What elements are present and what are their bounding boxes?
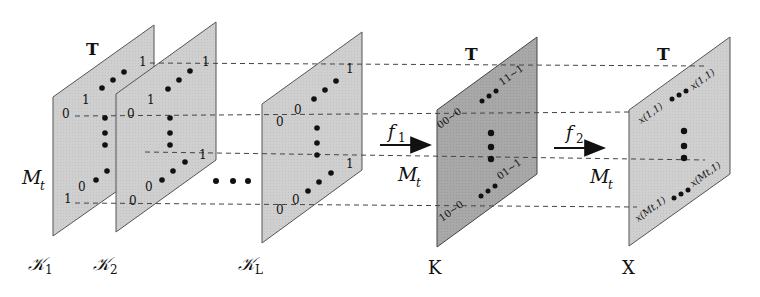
k1-code: 1 (64, 192, 72, 206)
f2-mt-sub: t (608, 178, 613, 192)
k1-code: 0 (78, 180, 86, 194)
label-k2-sub: 2 (110, 263, 118, 277)
k1-code: 1 (82, 93, 90, 107)
k2-code: 1 (199, 148, 207, 162)
label-k: K (428, 257, 442, 278)
time-label-x: T (657, 44, 670, 64)
f2-mt: M (589, 165, 610, 187)
f2-sub: 2 (576, 132, 584, 146)
f2-label: f (564, 122, 576, 143)
f1-label: f (386, 121, 398, 142)
k1-code: 0 (62, 107, 70, 121)
arrow-f1: f 1 M t (380, 121, 430, 190)
k2-code: 0 (129, 194, 137, 208)
kl-code: 0 (292, 193, 300, 207)
plane-labels: 𝒦 1 𝒦 2 𝒦 L K X (28, 253, 635, 278)
kl-code: 0 (276, 203, 284, 217)
diagram-root: 1 1 0 0 1 1 1 0 1 0 0 1 0 0 1 0 0 11~1 0… (0, 0, 760, 297)
k2-code: 1 (147, 93, 155, 107)
kl-code: 0 (276, 115, 284, 129)
svg-text:t: t (40, 179, 45, 193)
kl-code: 1 (346, 62, 354, 76)
diagram-canvas: 1 1 0 0 1 1 1 0 1 0 0 1 0 0 1 0 0 11~1 0… (0, 0, 760, 297)
time-label-k1: T (86, 39, 99, 59)
arrow-f2: f 2 M t (554, 122, 613, 192)
guide-line-top (150, 63, 705, 66)
label-k1-sub: 1 (45, 263, 53, 277)
kl-code: 0 (294, 103, 302, 117)
time-label-k: T (465, 44, 478, 64)
guide-line-bottom (75, 203, 637, 207)
kl-code: 1 (346, 157, 354, 171)
f1-mt: M (397, 163, 418, 185)
label-kl-sub: L (255, 263, 263, 277)
label-x: X (622, 257, 635, 278)
f1-sub: 1 (398, 131, 406, 145)
k2-code: 0 (145, 180, 153, 194)
k1-code: 1 (139, 55, 147, 69)
ellipsis-dots (213, 178, 251, 184)
f1-mt-sub: t (416, 176, 421, 190)
guide-line-lower (145, 152, 705, 160)
svg-text:M: M (21, 166, 42, 188)
k2-code: 1 (202, 55, 210, 69)
k2-code: 0 (127, 107, 135, 121)
rows-label-left: M t (21, 166, 45, 193)
